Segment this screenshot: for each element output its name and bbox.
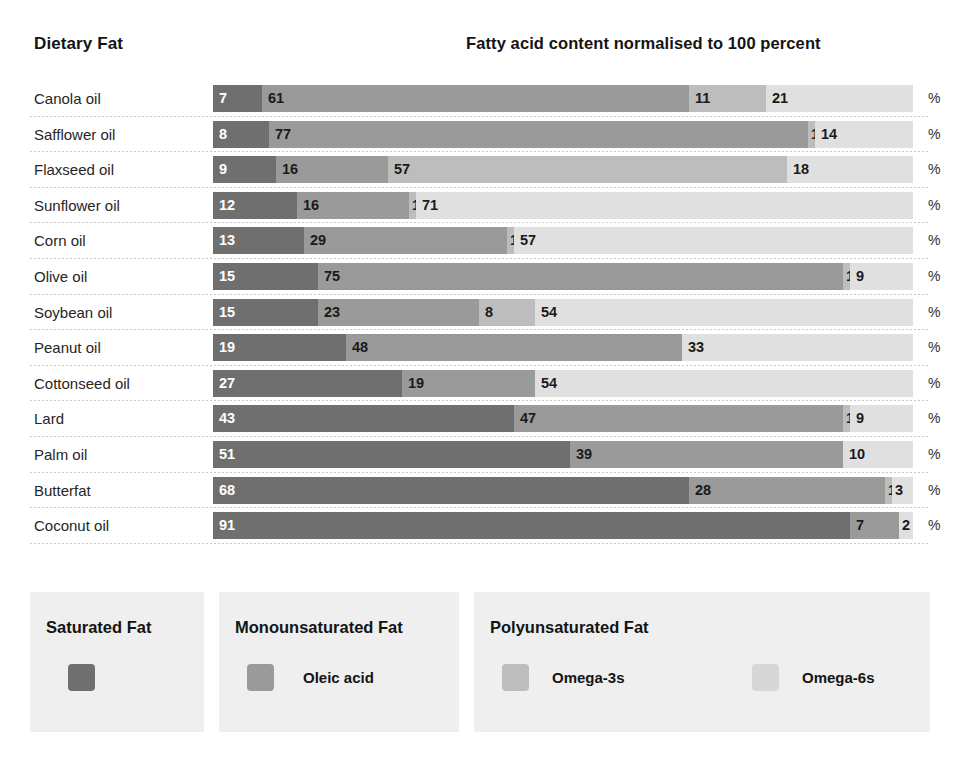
bar-segment-value: 28 bbox=[695, 477, 711, 504]
bar-segment-monounsaturated: 47 bbox=[514, 405, 843, 432]
row-label: Canola oil bbox=[34, 82, 101, 115]
bar-segment-value: 2 bbox=[902, 512, 910, 539]
legend-title-polyunsaturated: Polyunsaturated Fat bbox=[490, 618, 649, 637]
chart-row: Flaxseed oil9165718% bbox=[0, 153, 960, 189]
bar-segment-value: 33 bbox=[688, 334, 704, 361]
percent-unit-label: % bbox=[928, 121, 940, 148]
percent-unit-label: % bbox=[928, 441, 940, 468]
percent-unit-label: % bbox=[928, 227, 940, 254]
row-separator bbox=[30, 507, 930, 508]
row-separator bbox=[30, 187, 930, 188]
bar-segment-value: 19 bbox=[219, 334, 235, 361]
bar-segment-monounsaturated: 39 bbox=[570, 441, 843, 468]
chart-row: Canola oil7611121% bbox=[0, 82, 960, 118]
bar-segment-value: 7 bbox=[219, 85, 227, 112]
bar-segment-value: 15 bbox=[219, 263, 235, 290]
bar-segment-saturated: 51 bbox=[213, 441, 570, 468]
percent-unit-label: % bbox=[928, 477, 940, 504]
percent-unit-label: % bbox=[928, 370, 940, 397]
row-separator bbox=[30, 116, 930, 117]
legend-title-monounsaturated: Monounsaturated Fat bbox=[235, 618, 403, 637]
bar-segment-omega6: 33 bbox=[682, 334, 913, 361]
bar-segment-omega3: 1 bbox=[507, 227, 514, 254]
bar-segment-value: 71 bbox=[422, 192, 438, 219]
legend-group-monounsaturated-fat: Monounsaturated Fat Oleic acid bbox=[219, 592, 459, 732]
bar-segment-monounsaturated: 48 bbox=[346, 334, 682, 361]
bar-segment-value: 29 bbox=[310, 227, 326, 254]
bar-segment-omega6: 14 bbox=[815, 121, 913, 148]
stacked-bar: 9165718 bbox=[213, 156, 913, 183]
percent-unit-label: % bbox=[928, 405, 940, 432]
bar-segment-omega3: 57 bbox=[388, 156, 787, 183]
row-label: Corn oil bbox=[34, 224, 86, 257]
row-label: Coconut oil bbox=[34, 509, 109, 542]
chart-row: Cottonseed oil271954% bbox=[0, 367, 960, 403]
percent-unit-label: % bbox=[928, 263, 940, 290]
bar-segment-omega6: 2 bbox=[899, 512, 913, 539]
bar-segment-value: 75 bbox=[324, 263, 340, 290]
legend-swatch-saturated-icon bbox=[68, 664, 95, 691]
bar-segment-value: 57 bbox=[394, 156, 410, 183]
bar-segment-omega6: 3 bbox=[892, 477, 913, 504]
row-separator bbox=[30, 222, 930, 223]
bar-segment-value: 68 bbox=[219, 477, 235, 504]
bar-segment-monounsaturated: 19 bbox=[402, 370, 535, 397]
row-separator bbox=[30, 365, 930, 366]
chart-title: Fatty acid content normalised to 100 per… bbox=[466, 34, 821, 53]
chart-row: Sunflower oil1216171% bbox=[0, 189, 960, 225]
bar-segment-value: 16 bbox=[303, 192, 319, 219]
row-separator bbox=[30, 151, 930, 152]
bar-segment-saturated: 15 bbox=[213, 263, 318, 290]
bar-segment-saturated: 15 bbox=[213, 299, 318, 326]
bar-segment-value: 14 bbox=[821, 121, 837, 148]
legend-swatch-oleic-acid-icon bbox=[247, 664, 274, 691]
bar-segment-monounsaturated: 16 bbox=[276, 156, 388, 183]
bar-segment-value: 9 bbox=[219, 156, 227, 183]
bar-segment-value: 8 bbox=[219, 121, 227, 148]
page-title: Dietary Fat bbox=[34, 34, 123, 54]
bar-segment-monounsaturated: 23 bbox=[318, 299, 479, 326]
bar-segment-omega6: 18 bbox=[787, 156, 913, 183]
bar-segment-omega3: 1 bbox=[885, 477, 892, 504]
stacked-bar: 682813 bbox=[213, 477, 913, 504]
bar-segment-value: 43 bbox=[219, 405, 235, 432]
row-label: Flaxseed oil bbox=[34, 153, 114, 186]
row-label: Safflower oil bbox=[34, 118, 115, 151]
stacked-bar: 7611121 bbox=[213, 85, 913, 112]
bar-segment-saturated: 91 bbox=[213, 512, 850, 539]
row-label: Cottonseed oil bbox=[34, 367, 130, 400]
bar-segment-value: 39 bbox=[576, 441, 592, 468]
legend-title-saturated: Saturated Fat bbox=[46, 618, 151, 637]
bar-segment-omega6: 9 bbox=[850, 405, 913, 432]
chart-header: Dietary Fat Fatty acid content normalise… bbox=[0, 34, 960, 64]
bar-segment-value: 12 bbox=[219, 192, 235, 219]
chart-row: Lard434719% bbox=[0, 402, 960, 438]
chart-row: Palm oil513910% bbox=[0, 438, 960, 474]
bar-segment-value: 18 bbox=[793, 156, 809, 183]
bar-segment-saturated: 27 bbox=[213, 370, 402, 397]
row-separator bbox=[30, 472, 930, 473]
bar-segment-omega3: 8 bbox=[479, 299, 535, 326]
bar-segment-value: 61 bbox=[268, 85, 284, 112]
bar-segment-monounsaturated: 75 bbox=[318, 263, 843, 290]
bar-segment-saturated: 12 bbox=[213, 192, 297, 219]
bar-segment-omega6: 10 bbox=[843, 441, 913, 468]
percent-unit-label: % bbox=[928, 85, 940, 112]
chart-row: Safflower oil877114% bbox=[0, 118, 960, 154]
bar-segment-value: 13 bbox=[219, 227, 235, 254]
row-separator bbox=[30, 294, 930, 295]
bar-segment-omega6: 54 bbox=[535, 370, 913, 397]
percent-unit-label: % bbox=[928, 334, 940, 361]
stacked-bar: 434719 bbox=[213, 405, 913, 432]
chart-row: Peanut oil194833% bbox=[0, 331, 960, 367]
row-label: Soybean oil bbox=[34, 296, 112, 329]
bar-segment-value: 9 bbox=[856, 263, 864, 290]
bar-segment-omega6: 54 bbox=[535, 299, 913, 326]
row-separator bbox=[30, 543, 930, 544]
bar-segment-value: 54 bbox=[541, 299, 557, 326]
bar-segment-saturated: 8 bbox=[213, 121, 269, 148]
bar-segment-value: 9 bbox=[856, 405, 864, 432]
bar-segment-omega6: 9 bbox=[850, 263, 913, 290]
bar-segment-value: 11 bbox=[695, 85, 710, 112]
stacked-bar: 271954 bbox=[213, 370, 913, 397]
